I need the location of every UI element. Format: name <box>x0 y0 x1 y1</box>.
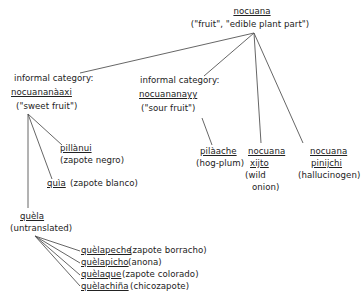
edge-root-sweet <box>80 33 254 73</box>
taxonomy-diagram: nocuana ("fruit", "edible plant part") i… <box>0 0 364 300</box>
xijto-term-line1: nocuana <box>248 146 285 156</box>
pillanui-term: pillànui <box>60 143 92 153</box>
quelaque-gloss: (zapote colorado) <box>122 269 199 279</box>
edge-sweet-pillanui <box>28 114 62 145</box>
quelapicho-gloss: (anona) <box>128 257 162 267</box>
pinijchi-gloss: (hallucinogen) <box>298 170 360 180</box>
sweet-category-label: informal category: <box>14 73 93 83</box>
quia-term: quìa <box>47 178 66 188</box>
quela-gloss: (untranslated) <box>10 223 72 233</box>
pilaache-gloss: (hog-plum) <box>196 158 244 168</box>
quelapicho-term: quèlapicho <box>81 257 129 267</box>
quia-gloss: (zapote blanco) <box>70 178 138 188</box>
sour-category-label: informal category: <box>140 75 219 85</box>
pinijchi-term-line2: pinijchi <box>311 158 342 168</box>
quelachina-gloss: (chicozapote) <box>130 281 189 291</box>
quelapeche-gloss: (zapote borracho) <box>129 245 207 255</box>
sour-category-term: nocuananayy <box>139 89 197 99</box>
edge-root-xijto <box>254 33 261 143</box>
quelachina-term: quèlachiña <box>81 281 129 291</box>
edge-quela-2 <box>35 236 80 263</box>
edge-sour-pilaache <box>202 118 212 145</box>
sweet-category-term: nocuananàaxi <box>11 87 72 97</box>
quelaque-term: quèlaque <box>81 269 121 279</box>
xijto-term-line2: xijto <box>250 158 269 168</box>
quela-term: quèla <box>20 211 44 221</box>
pillanui-gloss: (zapote negro) <box>60 155 124 165</box>
xijto-gloss-line2: onion) <box>252 182 279 192</box>
quelapeche-term: quèlapeche <box>81 245 132 255</box>
edge-root-pinijchi <box>254 33 303 143</box>
edge-quela-3 <box>35 236 80 275</box>
edge-root-sour <box>204 33 254 76</box>
sweet-category-gloss: ("sweet fruit") <box>16 101 77 111</box>
pilaache-term: pilàache <box>200 146 237 156</box>
root-gloss: ("fruit", "edible plant part") <box>191 19 310 29</box>
sour-category-gloss: ("sour fruit") <box>141 103 196 113</box>
pinijchi-term-line1: nocuana <box>310 146 347 156</box>
root-term: nocuana <box>233 6 270 16</box>
xijto-gloss-line1: (wild <box>245 170 266 180</box>
edge-sweet-quia <box>28 114 52 179</box>
